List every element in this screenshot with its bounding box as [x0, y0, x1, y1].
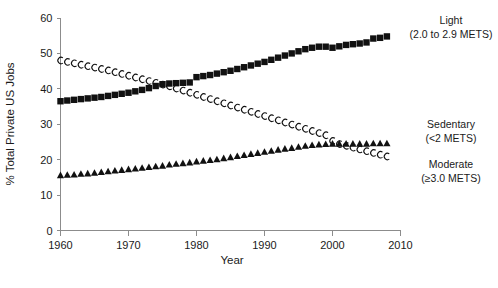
data-point	[207, 72, 213, 78]
x-tick-label: 1960	[48, 239, 72, 251]
data-point	[336, 43, 342, 49]
legend-label: Moderate	[429, 158, 474, 170]
data-point	[254, 149, 261, 156]
data-point	[213, 156, 220, 163]
data-point	[384, 153, 389, 159]
data-point	[105, 67, 110, 73]
data-point	[309, 128, 314, 134]
data-point	[166, 161, 173, 168]
data-point	[357, 40, 363, 46]
data-point	[316, 43, 322, 49]
data-point	[98, 94, 104, 100]
data-point	[356, 140, 363, 147]
data-point	[85, 63, 90, 69]
data-point	[125, 166, 132, 173]
data-point	[221, 100, 226, 106]
data-point	[132, 165, 139, 172]
data-point	[357, 146, 362, 152]
data-point	[193, 74, 199, 80]
data-point	[105, 168, 112, 175]
data-point	[363, 39, 369, 45]
data-point	[77, 170, 84, 177]
data-point	[275, 117, 280, 123]
chart-legend: Light(2.0 to 2.9 METS)Sedentary(<2 METS)…	[410, 14, 493, 184]
data-point	[248, 109, 253, 115]
data-point	[349, 140, 356, 147]
data-point	[316, 130, 321, 136]
data-point	[241, 64, 247, 70]
data-point	[261, 59, 267, 65]
data-point	[309, 142, 316, 149]
data-point	[302, 46, 308, 52]
data-point	[234, 152, 241, 159]
chart-svg: 0102030405060 196019701980199020002010 L…	[0, 0, 498, 288]
data-point	[289, 121, 294, 127]
data-point	[282, 52, 288, 58]
data-point	[200, 157, 207, 164]
legend-item-moderate: Moderate(≥3.0 METS)	[421, 158, 480, 184]
data-point	[139, 76, 144, 82]
data-point	[214, 70, 220, 76]
data-series-group	[57, 33, 391, 178]
y-axis-title: % Total Private US Jobs	[4, 62, 16, 185]
data-point	[71, 60, 76, 66]
data-point	[57, 98, 63, 104]
data-point	[234, 66, 240, 72]
data-point	[159, 162, 166, 169]
data-point	[295, 143, 302, 150]
data-point	[363, 140, 370, 147]
data-point	[179, 160, 186, 167]
y-axis: 0102030405060	[40, 12, 60, 237]
data-point	[275, 54, 281, 60]
data-point	[71, 171, 78, 178]
data-point	[371, 150, 376, 156]
legend-sublabel: (2.0 to 2.9 METS)	[410, 28, 493, 40]
data-point	[187, 90, 192, 96]
data-point	[146, 78, 151, 84]
y-tick-label: 60	[40, 12, 52, 24]
data-point	[255, 111, 260, 117]
data-point	[220, 155, 227, 162]
data-point	[323, 43, 329, 49]
data-point	[227, 68, 233, 74]
data-point	[262, 113, 267, 119]
data-point	[235, 104, 240, 110]
data-point	[288, 144, 295, 151]
data-point	[139, 164, 146, 171]
data-point	[57, 172, 64, 179]
x-axis: 196019701980199020002010	[48, 231, 412, 251]
data-point	[255, 60, 261, 66]
data-point	[92, 64, 97, 70]
data-point	[194, 92, 199, 98]
data-point	[384, 33, 390, 39]
legend-label: Sedentary	[427, 118, 476, 130]
data-point	[370, 35, 376, 41]
data-point	[315, 141, 322, 148]
data-point	[207, 156, 214, 163]
data-point	[200, 73, 206, 79]
legend-label: Light	[440, 14, 463, 26]
data-point	[370, 140, 377, 147]
data-point	[329, 45, 335, 51]
chart-figure: 0102030405060 196019701980199020002010 L…	[0, 0, 498, 288]
data-point	[91, 94, 97, 100]
x-tick-label: 2010	[388, 239, 412, 251]
data-point	[180, 87, 185, 93]
data-point	[302, 142, 309, 149]
data-point	[322, 140, 329, 147]
data-point	[187, 79, 193, 85]
data-point	[377, 140, 384, 147]
data-point	[383, 140, 390, 147]
legend-sublabel: (<2 METS)	[425, 132, 476, 144]
data-point	[126, 73, 131, 79]
data-point	[180, 80, 186, 86]
data-point	[84, 170, 91, 177]
data-point	[269, 115, 274, 121]
data-point	[132, 88, 138, 94]
data-point	[146, 85, 152, 91]
data-point	[268, 57, 274, 63]
x-tick-label: 2000	[320, 239, 344, 251]
legend-item-light: Light(2.0 to 2.9 METS)	[410, 14, 493, 40]
y-tick-label: 40	[40, 83, 52, 95]
data-point	[214, 98, 219, 104]
